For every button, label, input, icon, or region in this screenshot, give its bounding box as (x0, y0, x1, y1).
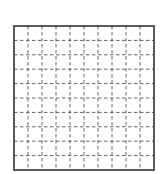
grid-lines (14, 26, 154, 170)
grid-diagram (0, 0, 162, 174)
